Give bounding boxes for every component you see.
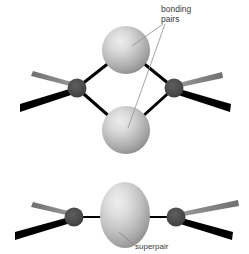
atom-left-top: [68, 79, 87, 98]
superpair-label: superpair: [135, 242, 169, 251]
bonding-pairs-label-line1: bonding: [161, 4, 192, 14]
figure-canvas: bonding pairs superpair: [0, 0, 249, 254]
bonding-pairs-label-line2: pairs: [161, 14, 179, 24]
bonding-pair-sphere-bottom: [102, 106, 150, 154]
atom-right-top: [165, 79, 184, 98]
atom-left-bottom: [65, 208, 84, 227]
atom-right-bottom: [167, 208, 186, 227]
bonding-pair-sphere-top: [102, 26, 150, 74]
superpair-ellipse: [100, 182, 150, 248]
molecule-diagram: bonding pairs superpair: [0, 0, 249, 254]
